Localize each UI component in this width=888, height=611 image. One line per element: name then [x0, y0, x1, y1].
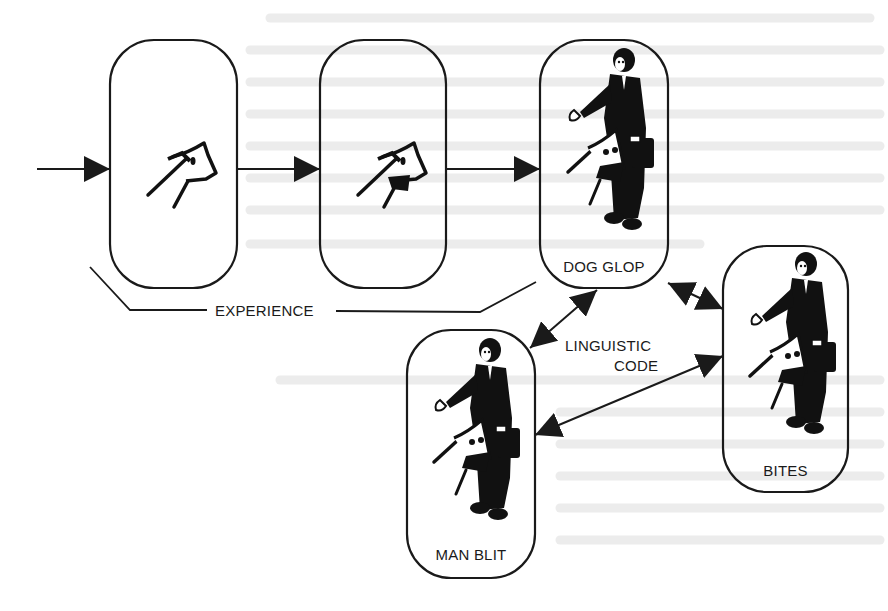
dog-head-icon	[148, 143, 216, 207]
linguistic-code-label-line2: CODE	[614, 357, 658, 374]
man-dog-silhouette-icon	[568, 48, 654, 230]
arrow-dogglop-bites	[668, 283, 723, 309]
man-dog-silhouette-icon	[750, 252, 836, 434]
experience-bracket-right	[336, 282, 536, 312]
man-blit-label: MAN BLIT	[407, 546, 535, 563]
dog-glop-diagram	[0, 0, 888, 611]
dog-biting-icon	[358, 143, 426, 207]
bites-label: BITES	[723, 462, 848, 479]
dog-glop-label: DOG GLOP	[540, 258, 668, 275]
man-dog-silhouette-icon	[434, 338, 520, 520]
experience-box-1	[110, 40, 237, 288]
linguistic-code-label-line1: LINGUISTIC	[565, 337, 651, 354]
experience-box-2	[320, 40, 446, 288]
experience-label: EXPERIENCE	[211, 302, 318, 319]
